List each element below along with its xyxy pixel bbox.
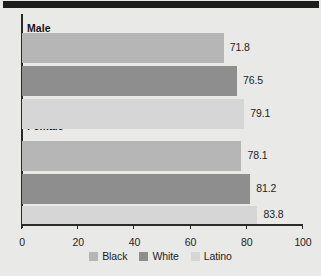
bar-value-label: 76.5 (243, 74, 263, 86)
legend-label: Black (102, 250, 127, 262)
legend-item-white: White (139, 250, 178, 262)
bar-female-latino (22, 206, 257, 224)
chart-figure: 020406080100 MaleFemale 71.876.579.178.1… (0, 0, 321, 276)
x-axis-line (21, 224, 303, 226)
x-axis-tick-label: 40 (129, 236, 140, 248)
chart-legend: BlackWhiteLatino (0, 248, 321, 264)
legend-item-black: Black (89, 250, 127, 262)
legend-swatch-icon (89, 252, 98, 261)
bar-female-white (22, 174, 250, 204)
bar-value-label: 83.8 (263, 208, 283, 220)
x-axis-tick-label: 100 (294, 236, 311, 248)
x-axis-tick (133, 224, 134, 229)
x-axis-tick-label: 80 (241, 236, 252, 248)
legend-swatch-icon (139, 252, 148, 261)
legend-swatch-icon (191, 252, 200, 261)
legend-label: White (152, 250, 178, 262)
bar-value-label: 71.8 (230, 41, 250, 53)
legend-label: Latino (204, 250, 232, 262)
bar-male-latino (22, 99, 244, 129)
legend-item-latino: Latino (191, 250, 232, 262)
x-axis-tick-label: 0 (19, 236, 25, 248)
x-axis-tick-label: 20 (72, 236, 83, 248)
x-axis-tick (302, 224, 303, 229)
bar-male-black (22, 33, 224, 63)
bar-female-black (22, 141, 241, 171)
x-axis-tick (21, 224, 22, 229)
x-axis-tick (190, 224, 191, 229)
bar-male-white (22, 66, 237, 96)
bar-value-label: 79.1 (250, 107, 270, 119)
top-rule-band (3, 1, 319, 8)
plot-area: 020406080100 MaleFemale 71.876.579.178.1… (0, 10, 321, 226)
x-axis-tick-label: 60 (185, 236, 196, 248)
x-axis-tick (77, 224, 78, 229)
x-axis-tick (246, 224, 247, 229)
bar-value-label: 78.1 (247, 149, 267, 161)
bar-value-label: 81.2 (256, 182, 276, 194)
